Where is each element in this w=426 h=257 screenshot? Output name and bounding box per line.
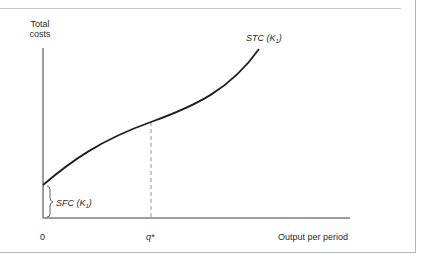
sfc-label: SFC (K1) <box>56 198 92 211</box>
stc-label: STC (K1) <box>246 33 282 46</box>
cost-chart <box>0 0 426 257</box>
stc-label-text: STC (K <box>246 33 276 43</box>
sfc-label-text: SFC (K <box>56 198 86 208</box>
sfc-label-close: ) <box>89 198 92 208</box>
sfc-brace-icon <box>47 186 53 217</box>
stc-label-close: ) <box>279 33 282 43</box>
origin-label: 0 <box>40 232 45 242</box>
q-star-label: q* <box>146 232 155 242</box>
x-axis-label: Output per period <box>278 232 348 242</box>
y-axis-label: Total costs <box>29 19 51 39</box>
y-axis-label-line1: Total <box>29 19 51 29</box>
y-axis-label-line2: costs <box>29 29 51 39</box>
